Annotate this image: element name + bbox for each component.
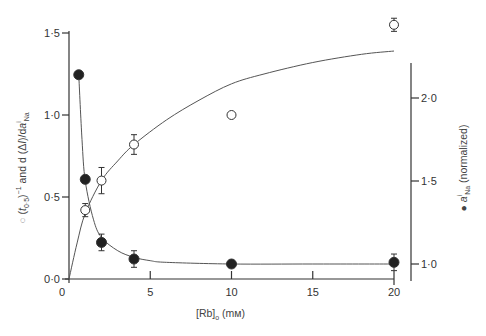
left-y-tick-label: 0·0	[44, 273, 60, 285]
filled-data-point	[97, 237, 107, 247]
open-data-point	[81, 206, 90, 215]
svg-text:● aiNa (normalized): ● aiNa (normalized)	[456, 125, 471, 212]
left-y-tick-label: 0·5	[44, 191, 60, 203]
x-tick-label: 15	[307, 286, 319, 298]
data-points	[74, 20, 399, 269]
x-tick-label: 20	[388, 286, 400, 298]
chart: 051015200·00·51·01·51·01·52·0 [Rb]o (mм)…	[0, 0, 486, 336]
open-data-point	[227, 111, 236, 120]
right-y-tick-label: 1·5	[421, 175, 437, 187]
right-y-tick-label: 1·0	[421, 258, 437, 270]
svg-text:○ (t0·5)−1 and d (ΔI)/daiNa: ○ (t0·5)−1 and d (ΔI)/daiNa	[15, 112, 30, 224]
open-data-point	[130, 140, 139, 149]
filled-data-point	[389, 257, 399, 267]
left-axis-title: ○ (t0·5)−1 and d (ΔI)/daiNa	[15, 112, 30, 224]
x-tick-label: 5	[147, 286, 153, 298]
open-data-point	[97, 176, 106, 185]
tick-labels: 051015200·00·51·01·51·01·52·0	[44, 27, 437, 298]
axes	[62, 31, 419, 285]
right-y-tick-label: 2·0	[421, 92, 437, 104]
rising-fit-curve	[69, 51, 394, 279]
filled-data-point	[129, 254, 139, 264]
x-tick-label: 10	[225, 286, 237, 298]
left-y-tick-label: 1·0	[44, 109, 60, 121]
falling-fit-curve	[79, 75, 394, 264]
filled-data-point	[74, 70, 84, 80]
open-data-point	[390, 20, 399, 29]
filled-data-point	[227, 259, 237, 269]
x-axis-title: [Rb]o (mм)	[196, 307, 245, 321]
filled-data-point	[80, 174, 90, 184]
left-y-tick-label: 1·5	[44, 27, 60, 39]
right-axis-title: ● aiNa (normalized)	[456, 125, 471, 212]
x-tick-label: 0	[59, 286, 65, 298]
fit-curves	[69, 51, 394, 279]
